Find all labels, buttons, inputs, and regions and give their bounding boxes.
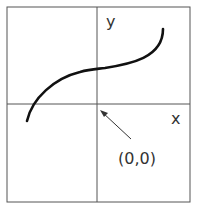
y-axis-label: y xyxy=(106,12,115,31)
curve xyxy=(27,29,163,121)
x-axis-label: x xyxy=(171,109,180,128)
graph-diagram: y x (0,0) xyxy=(0,0,200,218)
origin-arrow xyxy=(102,112,131,139)
origin-label: (0,0) xyxy=(118,149,156,168)
